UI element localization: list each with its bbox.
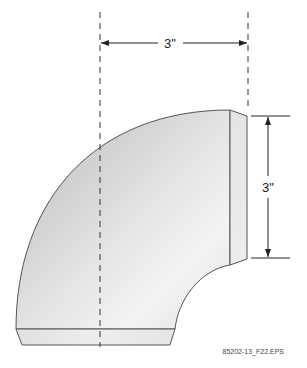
horizontal-dimension: 3" <box>101 36 247 51</box>
elbow-main-surface <box>16 110 230 329</box>
elbow-bottom-bevel <box>16 329 175 345</box>
elbow-diagram: 3" 3" 85202-13_F22.EPS <box>0 0 307 368</box>
elbow-right-bevel <box>230 110 247 265</box>
elbow-body <box>16 110 247 345</box>
vertical-dimension-label: 3" <box>262 180 274 195</box>
file-label: 85202-13_F22.EPS <box>223 348 285 356</box>
vertical-dimension: 3" <box>251 116 290 258</box>
horizontal-dimension-label: 3" <box>164 36 176 51</box>
